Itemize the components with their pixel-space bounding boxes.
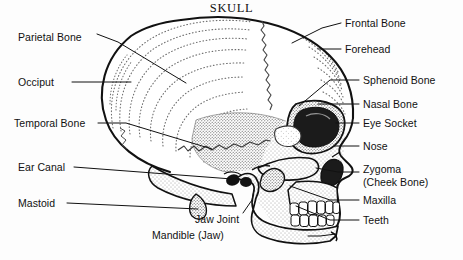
label-nasal-bone: Nasal Bone: [363, 98, 418, 110]
label-mastoid: Mastoid: [18, 197, 55, 209]
label-temporal-bone: Temporal Bone: [14, 117, 85, 129]
label-mandible: Mandible (Jaw): [152, 229, 224, 241]
label-nose: Nose: [363, 140, 388, 152]
label-zygoma: Zygoma: [363, 163, 401, 175]
label-jaw-joint: Jaw Joint: [195, 213, 239, 225]
lower-teeth: [291, 215, 334, 227]
label-forehead: Forehead: [345, 43, 390, 55]
label-frontal-bone: Frontal Bone: [345, 17, 406, 29]
label-parietal-bone: Parietal Bone: [18, 31, 82, 43]
label-ear-canal: Ear Canal: [18, 161, 65, 173]
label-eye-socket: Eye Socket: [363, 117, 417, 129]
upper-teeth: [290, 201, 340, 215]
label-teeth: Teeth: [363, 214, 389, 226]
label-cheek-bone: (Cheek Bone): [363, 176, 428, 188]
label-sphenoid-bone: Sphenoid Bone: [363, 74, 435, 86]
label-occiput: Occiput: [18, 76, 54, 88]
label-maxilla: Maxilla: [363, 194, 396, 206]
skull-diagram: SKULL: [0, 0, 463, 260]
